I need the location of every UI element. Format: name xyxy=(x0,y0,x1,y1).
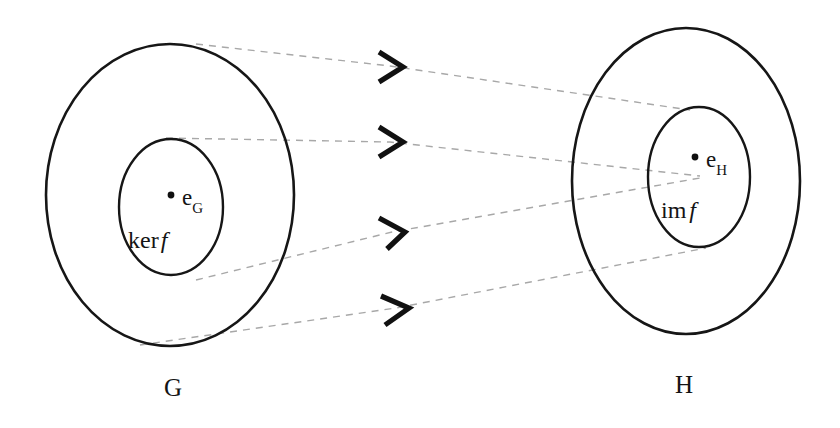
codomain-identity-letter: e xyxy=(706,147,716,172)
kernel-subset-ellipse xyxy=(119,139,223,275)
codomain-set-label: H xyxy=(675,371,693,398)
mapping-line-3 xyxy=(196,178,700,280)
mapping-arrowhead-4 xyxy=(381,296,409,325)
mapping-lines-group xyxy=(140,44,706,345)
kernel-label: kerf xyxy=(128,227,171,253)
arrow-heads-group xyxy=(379,52,409,325)
kernel-label-function: f xyxy=(161,227,171,253)
mapping-arrowhead-3 xyxy=(379,218,405,249)
identity-dot-domain xyxy=(168,192,175,199)
identity-dot-codomain xyxy=(692,154,699,161)
codomain-identity-subscript: H xyxy=(716,162,727,178)
domain-set-label: G xyxy=(164,374,182,401)
image-label: imf xyxy=(661,197,699,223)
mapping-arrowhead-1 xyxy=(379,52,403,82)
image-label-function: f xyxy=(689,197,699,223)
kernel-label-prefix: ker xyxy=(128,227,159,253)
codomain-identity-label: eH xyxy=(706,147,727,178)
domain-identity-letter: e xyxy=(182,185,192,210)
homomorphism-diagram: eG kerf eH imf G H xyxy=(0,0,840,428)
image-label-prefix: im xyxy=(661,197,687,223)
mapping-line-2 xyxy=(166,138,700,176)
image-subset-ellipse xyxy=(648,107,750,247)
domain-identity-label: eG xyxy=(182,185,203,216)
diagram-canvas: eG kerf eH imf G H xyxy=(0,0,840,428)
mapping-line-1 xyxy=(196,44,690,110)
domain-identity-subscript: G xyxy=(192,200,203,216)
